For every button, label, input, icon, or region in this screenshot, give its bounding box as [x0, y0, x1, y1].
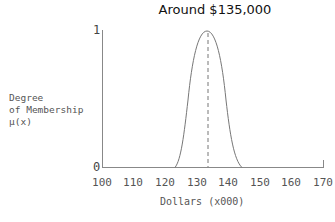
plot-area	[0, 0, 335, 222]
